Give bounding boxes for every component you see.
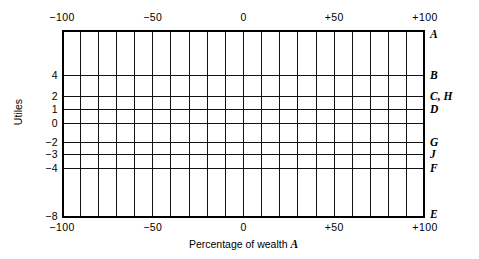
gridline-horizontal (64, 75, 423, 76)
x-tick-label: 0 (240, 11, 246, 23)
y-tick-label: −8 (45, 210, 58, 222)
y-tick-label: −4 (45, 162, 58, 174)
gridline-vertical (406, 32, 407, 216)
y-tick-label: 4 (52, 69, 58, 81)
gridline-horizontal (64, 154, 423, 155)
series-labels: ABC, HDGJFE (430, 0, 479, 259)
x-tick-label: +50 (325, 221, 344, 233)
x-axis-title-text: Percentage of wealth (189, 238, 288, 250)
gridline-vertical (134, 32, 135, 216)
series-label-a: A (430, 28, 438, 40)
gridline-vertical (370, 32, 371, 216)
y-tick-label: −3 (45, 148, 58, 160)
gridline-horizontal (64, 123, 423, 124)
gridline-horizontal (64, 168, 423, 169)
series-label-f: F (430, 162, 438, 174)
gridlines (64, 32, 423, 216)
gridline-vertical (261, 32, 262, 216)
gridline-vertical (170, 32, 171, 216)
gridline-vertical (207, 32, 208, 216)
gridline-vertical (80, 32, 81, 216)
x-axis-title: Percentage of wealth A (62, 238, 425, 250)
gridline-vertical (388, 32, 389, 216)
chart-figure: −100−500+50+100 −100−500+50+100 4210−2−3… (0, 0, 479, 259)
gridline-horizontal (64, 96, 423, 97)
gridline-vertical (334, 32, 335, 216)
y-axis-title: Utiles (12, 82, 24, 142)
gridline-vertical (152, 32, 153, 216)
series-label-ch: C, H (430, 90, 452, 102)
series-label-d: D (430, 103, 438, 115)
y-axis-ticks: 4210−2−3−4−8 (30, 0, 58, 259)
gridline-vertical (316, 32, 317, 216)
series-label-e: E (430, 208, 438, 220)
gridline-vertical (352, 32, 353, 216)
x-tick-label: −50 (143, 11, 162, 23)
x-axis-title-symbol: A (290, 238, 298, 250)
plot-area (62, 30, 425, 218)
series-label-j: J (430, 148, 436, 160)
gridline-vertical (279, 32, 280, 216)
x-tick-label: −50 (143, 221, 162, 233)
y-tick-label: 1 (52, 103, 58, 115)
gridline-vertical (116, 32, 117, 216)
gridline-horizontal (64, 109, 423, 110)
gridline-vertical (243, 32, 244, 216)
gridline-vertical (98, 32, 99, 216)
y-tick-label: 2 (52, 90, 58, 102)
series-label-b: B (430, 69, 438, 81)
gridline-horizontal (64, 142, 423, 143)
gridline-vertical (297, 32, 298, 216)
gridline-vertical (189, 32, 190, 216)
gridline-vertical (225, 32, 226, 216)
series-label-g: G (430, 136, 438, 148)
y-tick-label: 0 (52, 117, 58, 129)
x-tick-label: +50 (325, 11, 344, 23)
x-tick-label: 0 (240, 221, 246, 233)
y-tick-label: −2 (45, 136, 58, 148)
